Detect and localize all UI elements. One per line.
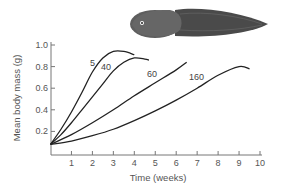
y-tick-label: 0.4 — [35, 105, 48, 115]
x-tick-label: 8 — [216, 158, 221, 168]
y-axis-title: Mean body mass (g) — [11, 55, 22, 142]
y-tick-label: 0.8 — [35, 62, 48, 72]
series-label-60: 60 — [147, 69, 157, 79]
x-tick-label: 5 — [153, 158, 158, 168]
series-label-5: 5 — [90, 58, 95, 68]
series-line-40 — [51, 58, 149, 145]
x-tick-label: 3 — [111, 158, 116, 168]
y-axis-ticks: 0.20.40.60.81.0 — [35, 40, 55, 136]
x-tick-label: 1 — [69, 158, 74, 168]
series-line-60 — [51, 62, 187, 144]
x-tick-label: 9 — [237, 158, 242, 168]
series-lines — [51, 51, 250, 145]
y-tick-label: 1.0 — [35, 40, 48, 50]
y-tick-label: 0.6 — [35, 83, 48, 93]
tadpole-illustration — [130, 9, 268, 38]
series-label-40: 40 — [101, 62, 111, 72]
x-axis-title: Time (weeks) — [130, 172, 187, 183]
x-axis-ticks: 12345678910 — [69, 151, 265, 168]
x-tick-label: 10 — [255, 158, 265, 168]
y-tick-label: 0.2 — [35, 126, 48, 136]
x-tick-label: 4 — [132, 158, 137, 168]
x-tick-label: 2 — [90, 158, 95, 168]
chart: 0.20.40.60.81.0 12345678910 Mean body ma… — [0, 0, 282, 191]
series-label-160: 160 — [189, 72, 204, 82]
x-tick-label: 7 — [195, 158, 200, 168]
x-tick-label: 6 — [174, 158, 179, 168]
